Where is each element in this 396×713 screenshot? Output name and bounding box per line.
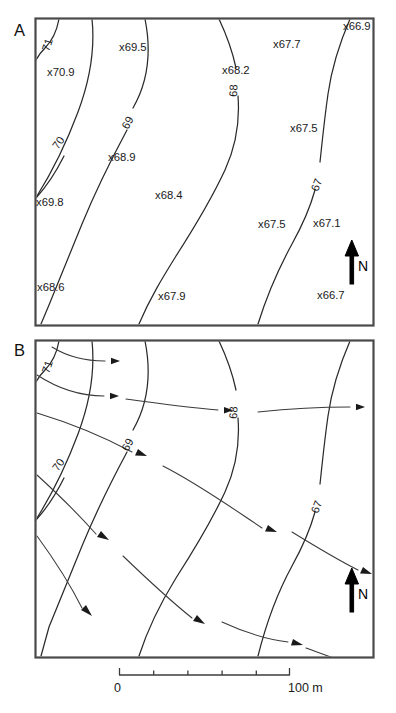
data-label: x67.1: [313, 217, 341, 229]
north-arrow-shaft: [350, 580, 354, 612]
data-label: x67.7: [273, 38, 301, 50]
contour-label-68-b: 68: [227, 406, 239, 419]
figure-canvas: A 71 70 69 68 67: [0, 0, 396, 713]
panel-a: A 71 70 69 68 67: [14, 19, 374, 326]
scale-bar-end-label: 100 m: [288, 681, 323, 695]
data-label: x70.9: [47, 66, 75, 78]
data-label: x67.5: [290, 122, 318, 134]
data-label: x67.5: [258, 218, 286, 230]
panel-a-frame: [36, 19, 374, 326]
north-label: N: [358, 258, 368, 274]
north-label: N: [358, 586, 368, 602]
data-label: x68.6: [37, 281, 65, 293]
data-label: x69.5: [119, 41, 147, 53]
panel-b-letter: B: [14, 341, 25, 359]
data-label: x69.8: [36, 196, 64, 208]
north-arrow-shaft: [350, 252, 354, 284]
contour-label-68-a: 68: [227, 84, 239, 97]
data-label: x68.2: [222, 64, 250, 76]
contour-map-figure: A 71 70 69 68 67: [0, 0, 396, 713]
scale-bar-start-label: 0: [114, 681, 121, 695]
data-label: x68.9: [108, 151, 136, 163]
data-label: x66.9: [343, 20, 371, 32]
panel-b: B: [14, 341, 374, 665]
data-label: x66.7: [317, 289, 345, 301]
panel-a-letter: A: [14, 21, 25, 39]
data-label: x67.9: [158, 290, 186, 302]
data-label: x68.4: [155, 189, 183, 201]
scale-bar: 0 100 m: [114, 668, 323, 695]
